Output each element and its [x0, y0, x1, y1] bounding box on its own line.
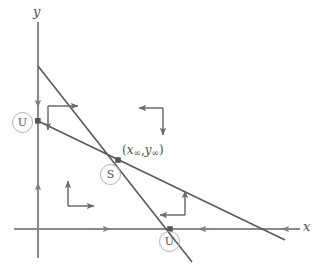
- equilibrium-label-x-axis: U: [159, 231, 180, 252]
- saddle-coordinates-label: (x∞,y∞): [122, 144, 164, 158]
- arrow-pair-upper-right: [139, 108, 163, 135]
- y-axis-label: y: [33, 5, 40, 18]
- y-variable: y: [145, 143, 152, 157]
- arrow-pair-lower-right: [160, 191, 185, 215]
- y-subscript: ∞: [152, 148, 160, 158]
- phase-plane-svg: [0, 0, 321, 266]
- x-axis-label: x: [303, 220, 310, 233]
- equilibrium-marker-saddle: [115, 157, 121, 163]
- phase-plane-figure: y x U S U (x∞,y∞): [0, 0, 321, 266]
- equilibrium-marker-y-axis: [35, 118, 41, 124]
- paren-close: ): [159, 143, 164, 157]
- arrow-pair-upper-left: [48, 106, 78, 130]
- x-subscript: ∞: [133, 148, 141, 158]
- saddle-label: S: [100, 164, 121, 185]
- equilibrium-label-y-axis: U: [12, 112, 33, 133]
- arrow-pair-lower-left: [68, 181, 94, 206]
